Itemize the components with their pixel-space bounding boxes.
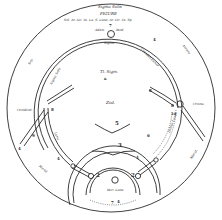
left-connector-1 [20, 110, 44, 144]
main-band-left-lower-inner [48, 108, 73, 162]
circular-diagram [0, 0, 222, 220]
center-marker: K [104, 78, 107, 81]
top-node [108, 31, 115, 38]
center-label-lower: Zod. [106, 101, 115, 105]
under-top-label: Sigma [104, 42, 114, 45]
number-7-bottom: 7 [111, 201, 114, 205]
bottom-left-node [71, 164, 75, 168]
right-connector-1 [183, 106, 205, 137]
top-node-label-right: Mod. [116, 29, 124, 32]
title-line-3: Sol. Ar. Hc. Ta. Lu. S. Luna. Ar. Hc. Ta… [64, 19, 133, 22]
arc-label-left-side: Occident. [17, 109, 32, 112]
arc-label-bottom-inner: Mer. Luna [107, 189, 123, 192]
arc-3-left [92, 151, 113, 155]
mid-circle-inner [73, 152, 157, 203]
number-9-left: 9 [32, 134, 35, 138]
top-node-number: 7 [109, 24, 112, 28]
left-inner-spoke-1 [47, 85, 72, 101]
arc-label-right-side: Oriens [193, 103, 204, 106]
center-label-upper: Tl. Sigm. [100, 70, 118, 74]
left-inner-spoke-2 [48, 88, 74, 104]
inner-left-node [88, 173, 93, 178]
number-4-left: 4 [18, 147, 21, 151]
title-line-2: FIGURE [100, 12, 117, 16]
right-dotted-band [153, 112, 172, 154]
number-4-bottom-left: 4 [57, 157, 60, 161]
number-3: 3 [118, 143, 122, 149]
center-circle [112, 177, 118, 183]
top-node-label-left: Adam [95, 29, 104, 32]
right-connector-2 [181, 110, 203, 141]
number-8-left: 8 [51, 108, 54, 112]
number-5: 5 [115, 121, 119, 127]
bottom-right-node [154, 158, 158, 162]
inner-right-node [135, 173, 140, 178]
number-10-right: 10 [171, 113, 176, 117]
number-4-bottom: 4 [117, 200, 120, 204]
number-8-right-upper: 8 [149, 89, 152, 93]
arc-5-left [95, 124, 112, 133]
number-2-left: 2 [96, 173, 100, 179]
number-8-right: 8 [171, 104, 174, 108]
number-2-right: 2 [131, 173, 135, 179]
number-1: 1 [136, 156, 139, 161]
left-inner-connector-2 [74, 165, 90, 174]
number-4-top-right: 4 [153, 38, 156, 42]
title-line-1: Sigma Solis [98, 5, 122, 9]
right-inner-spoke-1 [150, 87, 176, 103]
number-6: 6 [147, 134, 150, 138]
